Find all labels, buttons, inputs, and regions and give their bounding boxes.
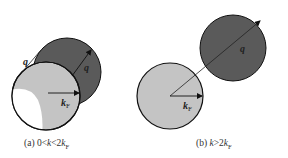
- caption-a-prefix: (a) 0<: [24, 138, 47, 148]
- diagram-canvas: q q kF q kF: [0, 0, 288, 158]
- caption-a: (a) 0<k<2kF: [24, 138, 69, 150]
- q-label-b: q: [240, 43, 245, 54]
- q-label-outer-a: q: [23, 56, 28, 67]
- panel-b: q kF: [137, 15, 266, 129]
- caption-a-kf-sub: F: [66, 143, 70, 150]
- q-label-inner-a: q: [84, 62, 89, 73]
- caption-a-mid: <2: [51, 138, 61, 148]
- caption-b-kf-sub: F: [228, 143, 232, 150]
- caption-b-mid: >2: [214, 138, 224, 148]
- caption-b: (b) k>2kF: [196, 138, 232, 150]
- caption-b-prefix: (b): [196, 138, 209, 148]
- shifted-sphere-b: [200, 15, 266, 81]
- panel-a: q q kF: [5, 38, 101, 135]
